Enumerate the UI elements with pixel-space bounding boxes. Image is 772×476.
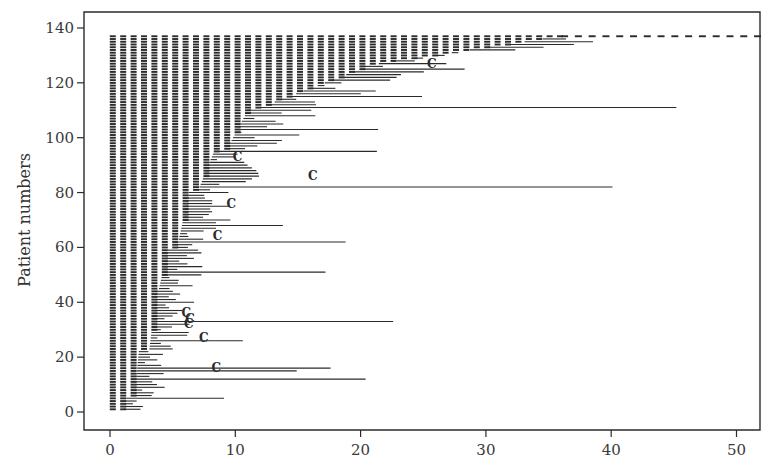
y-tick-label: 140 [45,19,74,37]
y-tick-label: 80 [55,184,74,202]
y-tick-label: 120 [45,74,74,92]
x-tick-label: 50 [727,441,746,459]
censor-mark: C [233,150,243,164]
x-tick-label: 0 [105,441,115,459]
censor-mark: C [227,197,237,211]
y-tick-label: 40 [55,293,74,311]
y-tick-label: 100 [45,129,74,147]
x-tick-label: 40 [602,441,621,459]
censor-mark: C [181,306,191,320]
y-tick-label: 60 [55,238,74,256]
x-tick-label: 30 [476,441,495,459]
censor-mark: C [213,229,223,243]
y-tick-label: 0 [64,403,74,421]
swimmer-plot: CCCCCCCCCC 01020304050 02040608010012014… [0,0,772,476]
x-axis: 01020304050 [105,430,746,459]
y-axis: 020406080100120140 [45,19,84,421]
y-tick-label: 20 [55,348,74,366]
censor-mark: C [427,57,437,71]
censor-mark: C [211,361,221,375]
x-tick-label: 10 [226,441,245,459]
y-axis-title: Patient numbers [15,153,34,287]
x-tick-label: 20 [351,441,370,459]
patient-bars [110,35,761,410]
censor-mark: C [199,331,209,345]
censor-mark: C [308,169,318,183]
